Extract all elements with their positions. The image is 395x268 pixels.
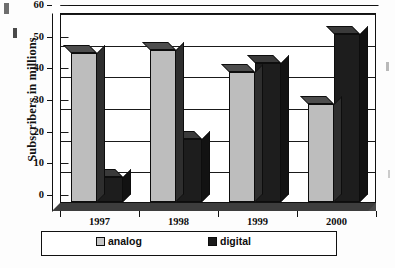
chart-legend: analogdigital (41, 231, 337, 256)
analog-swatch (96, 237, 105, 246)
x-axis-tick-label-1998: 1998 (149, 216, 209, 227)
gridline-depth-connector (52, 100, 60, 108)
bar-front-face (150, 50, 176, 202)
bar-top-face (326, 26, 360, 34)
x-axis-tick-label-1999: 1999 (228, 216, 288, 227)
bar-side-face (202, 131, 210, 202)
bar-analog-1997 (71, 53, 97, 202)
x-axis-tick-mark (139, 211, 140, 217)
bar-side-face (176, 42, 184, 202)
bar-analog-2000 (308, 104, 334, 202)
legend-label-analog: analog (108, 236, 142, 247)
chart-screenshot: Subscribers in millions 0102030405060 19… (0, 0, 395, 268)
x-axis-tick-mark (297, 211, 298, 217)
y-axis-tick-mark (47, 132, 52, 133)
bar-front-face (229, 72, 255, 202)
bar-top-face (247, 55, 281, 63)
gridline-depth-connector (52, 195, 60, 203)
bar-top-face (221, 64, 255, 72)
x-axis-tick-label-2000: 2000 (307, 216, 367, 227)
bar-side-face (334, 96, 342, 202)
y-axis-tick-label: 0 (20, 189, 44, 200)
bar-side-face (97, 45, 105, 202)
bar-side-face (360, 26, 368, 202)
bar-front-face (308, 104, 334, 202)
y-axis-tick-mark (47, 100, 52, 101)
scan-artifact-top-left (4, 3, 9, 14)
bar-side-face (123, 169, 131, 202)
x-axis-tick-mark (60, 211, 61, 217)
bar-side-face (255, 64, 263, 202)
legend-entry-analog: analog (96, 236, 142, 247)
gridline (61, 77, 375, 78)
gridline-depth-connector (52, 37, 60, 45)
gridline-depth-connector (52, 68, 60, 76)
y-axis-tick-label: 30 (20, 94, 44, 105)
plot-back-wall-top (52, 5, 370, 13)
y-axis-tick-label: 40 (20, 62, 44, 73)
scan-artifact-right-lower (388, 170, 390, 178)
bar-analog-1998 (150, 50, 176, 202)
plot-area: 0102030405060 1997199819992000 (47, 5, 387, 210)
legend-label-digital: digital (220, 236, 251, 247)
gridline (61, 14, 375, 15)
y-axis-tick-label: 20 (20, 126, 44, 137)
legend-entry-digital: digital (208, 236, 251, 247)
y-axis-tick-mark (47, 5, 52, 6)
y-axis-tick-mark (47, 68, 52, 69)
scan-artifact-left-edge (13, 28, 17, 38)
gridline-depth-connector (52, 163, 60, 171)
digital-swatch (208, 237, 217, 246)
y-axis-tick-mark (47, 37, 52, 38)
x-axis-tick-mark (218, 211, 219, 217)
bar-front-face (71, 53, 97, 202)
gridline (61, 46, 375, 47)
gridline-depth-connector (52, 5, 60, 13)
x-axis-tick-label-1997: 1997 (70, 216, 130, 227)
y-axis-tick-label: 50 (20, 31, 44, 42)
bar-top-face (142, 42, 176, 50)
y-axis-tick-label: 60 (20, 0, 44, 10)
plot-frame (60, 13, 376, 203)
plot-floor (60, 203, 376, 211)
x-axis-tick-mark (376, 211, 377, 217)
y-axis-tick-mark (47, 163, 52, 164)
bar-analog-1999 (229, 72, 255, 202)
bar-top-face (300, 96, 334, 104)
y-axis-tick-mark (47, 195, 52, 196)
y-axis-tick-label: 10 (20, 157, 44, 168)
bar-side-face (281, 55, 289, 202)
gridline-depth-connector (52, 132, 60, 140)
